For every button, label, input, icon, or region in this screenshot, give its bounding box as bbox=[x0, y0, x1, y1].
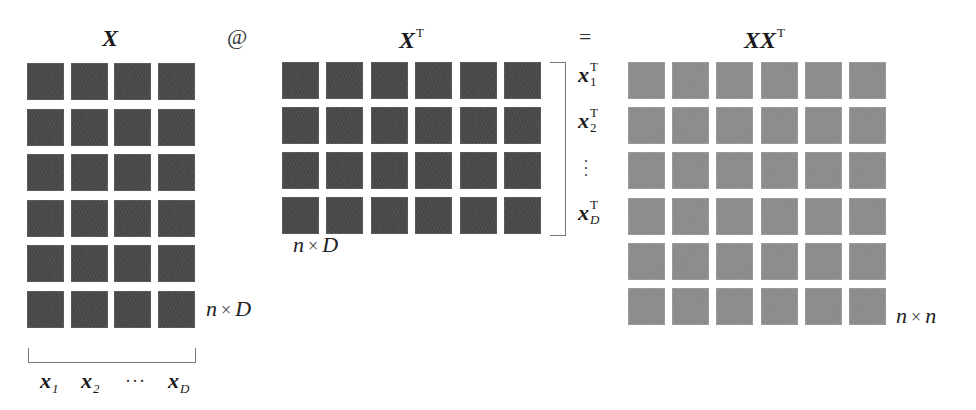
vector-base: x bbox=[81, 368, 92, 393]
matrix-cell bbox=[628, 243, 665, 280]
matrix-cell bbox=[460, 197, 497, 234]
matrix-cell bbox=[114, 200, 151, 237]
matrix-cell bbox=[27, 154, 64, 191]
matrix-cell bbox=[849, 152, 886, 189]
vector-base: x bbox=[168, 368, 179, 393]
vector-superscript: T bbox=[590, 106, 598, 119]
matrix-cell bbox=[371, 152, 408, 189]
matrix-cell bbox=[628, 152, 665, 189]
matrix-cell bbox=[716, 288, 753, 325]
vector-subscript: 1 bbox=[590, 75, 597, 88]
matrix-cell bbox=[849, 243, 886, 280]
matrix-cell bbox=[158, 200, 195, 237]
row-vector-xDt: xTD bbox=[578, 202, 601, 224]
matrix-cell bbox=[504, 107, 541, 144]
matrix-cell bbox=[326, 152, 363, 189]
matrix-cell bbox=[761, 288, 798, 325]
matrix-cell bbox=[672, 198, 709, 235]
matrix-cell bbox=[71, 109, 108, 146]
matrix-cell bbox=[761, 107, 798, 144]
matrix-cell bbox=[805, 152, 842, 189]
matrix-cell bbox=[114, 109, 151, 146]
matrix-cell bbox=[628, 198, 665, 235]
matrix-x-title-text: X bbox=[102, 25, 118, 51]
matrix-cell bbox=[628, 288, 665, 325]
matrix-cell bbox=[326, 107, 363, 144]
vector-subscript: 2 bbox=[590, 121, 597, 134]
row-vector-x1t: xT1 bbox=[578, 64, 601, 86]
matrix-cell bbox=[415, 62, 452, 99]
matrix-cell bbox=[415, 107, 452, 144]
matrix-cell bbox=[415, 152, 452, 189]
dim-cols: D bbox=[235, 296, 251, 321]
matrix-cell bbox=[114, 245, 151, 282]
column-bracket bbox=[28, 348, 196, 363]
matrix-cell bbox=[504, 197, 541, 234]
matrix-cell bbox=[282, 152, 319, 189]
matrix-cell bbox=[326, 62, 363, 99]
matrix-cell bbox=[371, 62, 408, 99]
matrix-cell bbox=[71, 291, 108, 328]
matrix-cell bbox=[71, 63, 108, 100]
times-sign: × bbox=[221, 300, 231, 320]
matrix-cell bbox=[849, 198, 886, 235]
matrix-cell bbox=[805, 107, 842, 144]
times-sign: × bbox=[308, 236, 318, 256]
matrix-cell bbox=[628, 62, 665, 99]
matrix-cell bbox=[716, 62, 753, 99]
transpose-superscript: T bbox=[777, 25, 785, 40]
matrix-cell bbox=[761, 243, 798, 280]
matrix-cell bbox=[849, 288, 886, 325]
matrix-cell bbox=[114, 291, 151, 328]
matrix-cell bbox=[672, 62, 709, 99]
matrix-cell bbox=[805, 243, 842, 280]
matrix-cell bbox=[805, 198, 842, 235]
matrix-cell bbox=[114, 154, 151, 191]
matrix-cell bbox=[672, 107, 709, 144]
dim-rows: n bbox=[896, 303, 907, 328]
matrix-xxt-dims: n×n bbox=[896, 305, 936, 327]
matrix-xt-dims: n×D bbox=[293, 234, 338, 256]
matrix-cell bbox=[282, 197, 319, 234]
row-vector-x2t: xT2 bbox=[578, 110, 601, 132]
times-sign: × bbox=[911, 307, 921, 327]
dim-rows: n bbox=[206, 296, 217, 321]
row-ellipsis: ··· bbox=[580, 158, 592, 179]
vector-base: x bbox=[578, 108, 589, 133]
column-ellipsis: ··· bbox=[125, 371, 146, 392]
matrix-cell bbox=[27, 245, 64, 282]
matrix-cell bbox=[716, 243, 753, 280]
matrix-cell bbox=[158, 63, 195, 100]
matrix-xt-title: XT bbox=[399, 26, 424, 52]
column-vector-xD: xD bbox=[168, 370, 189, 392]
matrix-cell bbox=[849, 107, 886, 144]
transpose-superscript: T bbox=[416, 25, 424, 40]
matrix-cell bbox=[460, 152, 497, 189]
matrix-cell bbox=[460, 62, 497, 99]
matrix-cell bbox=[282, 62, 319, 99]
matmul-operator: @ bbox=[227, 26, 247, 48]
vector-base: x bbox=[578, 200, 589, 225]
matrix-cell bbox=[282, 107, 319, 144]
matrix-xxt-title-text: XX bbox=[744, 27, 776, 53]
matrix-cell bbox=[849, 62, 886, 99]
matrix-xt-title-text: X bbox=[399, 27, 415, 53]
equals-operator: = bbox=[579, 26, 591, 48]
matrix-cell bbox=[71, 245, 108, 282]
matrix-cell bbox=[371, 107, 408, 144]
dim-rows: n bbox=[293, 232, 304, 257]
matrix-cell bbox=[672, 152, 709, 189]
matrix-cell bbox=[71, 200, 108, 237]
matrix-cell bbox=[158, 109, 195, 146]
matrix-cell bbox=[761, 152, 798, 189]
vector-subscript: D bbox=[180, 381, 189, 396]
matrix-cell bbox=[805, 288, 842, 325]
matrix-xxt-title: XXT bbox=[744, 26, 785, 52]
matrix-cell bbox=[27, 200, 64, 237]
matrix-cell bbox=[672, 288, 709, 325]
matrix-cell bbox=[371, 197, 408, 234]
matrix-cell bbox=[415, 197, 452, 234]
matrix-cell bbox=[158, 154, 195, 191]
matrix-cell bbox=[805, 62, 842, 99]
matrix-cell bbox=[71, 154, 108, 191]
